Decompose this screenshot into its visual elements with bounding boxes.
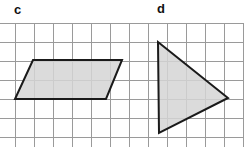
shapes-layer <box>0 0 244 147</box>
shape-parallelogram-c <box>15 60 122 99</box>
shape-label-c: c <box>14 3 21 16</box>
shape-triangle-d <box>158 42 228 133</box>
geometry-figure: c d <box>0 0 244 147</box>
shape-label-d: d <box>157 2 165 15</box>
